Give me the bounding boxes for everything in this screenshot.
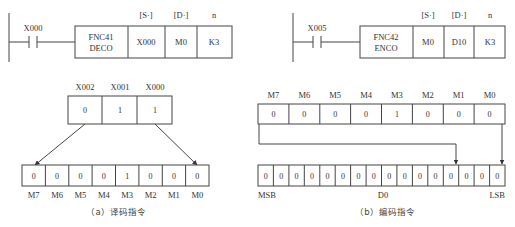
source-bit: 0 <box>333 110 337 119</box>
source-bit: 0 <box>302 110 306 119</box>
dest-label: M0 <box>191 190 203 200</box>
operand-header-n: n <box>212 10 217 20</box>
source-label: M2 <box>422 90 434 100</box>
dest-bit: 0 <box>279 172 283 181</box>
source-label: M0 <box>484 90 496 100</box>
dest-bit: 0 <box>102 172 106 181</box>
operand-n: K3 <box>209 37 219 47</box>
dest-bit: 0 <box>387 172 391 181</box>
dest-label: M6 <box>51 190 63 200</box>
mnemonic: DECO <box>89 43 112 53</box>
dest-label: M4 <box>98 190 111 200</box>
dest-bit: 0 <box>356 172 360 181</box>
function-code: FNC41 <box>88 32 113 42</box>
enco-dest-register: 0 0 0 0 0 0 0 0 0 0 0 0 0 0 0 0 MSB D0 L… <box>258 165 505 200</box>
deco-dest-register: 0 0 0 0 1 0 0 0 M7 M6 M5 M4 M3 M2 M1 M0 <box>22 165 209 200</box>
dest-bit: 0 <box>480 172 484 181</box>
source-bit: 0 <box>426 110 430 119</box>
dest-bit: 0 <box>195 172 199 181</box>
deco-enco-diagram: X000 [S·] [D·] n FNC41 DECO X000 M0 K3 X… <box>0 0 515 227</box>
enco-ladder-rung: X005 [S·] [D·] n FNC42 ENCO M0 D10 K3 <box>293 10 505 62</box>
source-label: M3 <box>391 90 403 100</box>
mnemonic: ENCO <box>374 43 397 53</box>
dest-bit: 0 <box>264 172 268 181</box>
dest-bit: 0 <box>172 172 176 181</box>
dest-bit: 0 <box>372 172 376 181</box>
source-label: M6 <box>298 90 310 100</box>
arrow-icon <box>155 124 197 165</box>
source-bit: 0 <box>364 110 368 119</box>
source-label: M4 <box>360 90 373 100</box>
dest-bit: 0 <box>434 172 438 181</box>
arrow-icon <box>259 124 456 164</box>
source-label: M5 <box>329 90 341 100</box>
contact-label: X005 <box>308 23 327 33</box>
dest-bit: 0 <box>78 172 82 181</box>
source-bit: 0 <box>488 110 492 119</box>
dest-label: M2 <box>145 190 157 200</box>
caption-b: （b）编码指令 <box>355 207 414 217</box>
operand-d: M0 <box>175 37 187 47</box>
source-bit: 0 <box>271 110 275 119</box>
dest-bit: 0 <box>418 172 422 181</box>
deco-arrows <box>35 124 197 165</box>
arrow-icon <box>35 124 85 165</box>
dest-bit: 0 <box>464 172 468 181</box>
operand-s: X000 <box>137 37 156 47</box>
source-label: M7 <box>267 90 279 100</box>
source-label: X002 <box>76 82 95 92</box>
dest-label: M7 <box>28 190 40 200</box>
dest-bit: 0 <box>55 172 59 181</box>
source-label: X001 <box>111 82 130 92</box>
deco-ladder-rung: X000 [S·] [D·] n FNC41 DECO X000 M0 K3 <box>9 10 232 62</box>
dest-bit: 0 <box>495 172 499 181</box>
dest-bit: 0 <box>295 172 299 181</box>
enco-arrows <box>259 124 502 164</box>
dest-bit: 0 <box>32 172 36 181</box>
dest-bit: 0 <box>310 172 314 181</box>
function-code: FNC42 <box>373 32 398 42</box>
instruction-box: FNC41 DECO X000 M0 K3 <box>75 26 232 58</box>
operand-s: M0 <box>422 37 434 47</box>
source-bit: 1 <box>395 110 399 119</box>
dest-bit: 0 <box>449 172 453 181</box>
contact-icon <box>29 36 37 48</box>
source-bit: 0 <box>83 106 87 115</box>
source-bit: 1 <box>153 106 157 115</box>
operand-header-d: [D·] <box>452 10 467 20</box>
dest-bit: 0 <box>326 172 330 181</box>
caption-a: （a）译码指令 <box>86 207 145 217</box>
dest-label: M1 <box>168 190 180 200</box>
operand-header-s: [S·] <box>421 10 434 20</box>
operand-header-d: [D·] <box>174 10 189 20</box>
dest-bit: 0 <box>149 172 153 181</box>
d0-label: D0 <box>378 190 388 200</box>
dest-bit: 1 <box>125 172 129 181</box>
msb-label: MSB <box>258 190 276 200</box>
operand-header-n: n <box>488 10 493 20</box>
source-bit: 0 <box>457 110 461 119</box>
instruction-box: FNC42 ENCO M0 D10 K3 <box>360 26 505 58</box>
deco-source-register: X002 X001 X000 0 1 1 <box>68 82 172 124</box>
source-bit: 1 <box>118 106 122 115</box>
dest-label: M5 <box>74 190 86 200</box>
source-label: M1 <box>453 90 465 100</box>
operand-n: K3 <box>485 37 495 47</box>
dest-bit: 0 <box>403 172 407 181</box>
contact-label: X000 <box>24 23 43 33</box>
dest-bit: 0 <box>341 172 345 181</box>
operand-header-s: [S·] <box>139 10 152 20</box>
source-label: X000 <box>146 82 165 92</box>
operand-d: D10 <box>452 37 467 47</box>
lsb-label: LSB <box>489 190 505 200</box>
enco-source-register: M7 M6 M5 M4 M3 M2 M1 M0 0 0 0 0 1 0 0 0 <box>258 90 505 124</box>
dest-label: M3 <box>121 190 133 200</box>
contact-icon <box>313 36 321 48</box>
